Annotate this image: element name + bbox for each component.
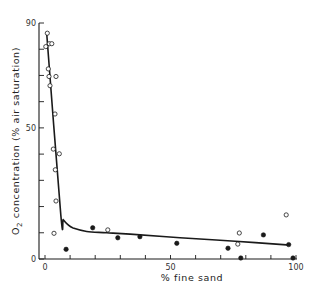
fitted-curve — [47, 35, 290, 245]
scatter-chart: 05010005090 % fine sand O2 concentration… — [0, 0, 317, 294]
x-axis-title: % fine sand — [161, 272, 223, 283]
filled-circle-point — [175, 241, 179, 245]
open-circle-point — [236, 242, 240, 246]
open-circle-point — [54, 199, 58, 203]
open-circle-point — [54, 74, 58, 78]
y-tick-label: 90 — [26, 19, 36, 28]
filled-circle-point — [239, 256, 243, 260]
open-circle-point — [46, 67, 50, 71]
open-circle-point — [237, 231, 241, 235]
open-circle-point — [284, 213, 288, 217]
x-tick-label: 0 — [42, 263, 47, 272]
y-tick-label: 50 — [26, 124, 36, 133]
filled-circle-point — [64, 247, 68, 251]
open-circle-point — [57, 152, 61, 156]
filled-circle-point — [226, 246, 230, 250]
filled-circle-point — [138, 235, 142, 239]
open-circle-point — [50, 42, 54, 46]
fitted-curve-line — [47, 35, 290, 245]
filled-circle-point — [287, 242, 291, 246]
axis-ticks — [39, 23, 296, 259]
open-circle-point — [48, 84, 52, 88]
filled-circle-point — [291, 256, 295, 260]
filled-circle-point — [91, 226, 95, 230]
filled-circle-point — [116, 236, 120, 240]
open-circle-point — [106, 228, 110, 232]
open-circle-point — [52, 231, 56, 235]
y-tick-label: 0 — [31, 255, 36, 264]
x-tick-label: 100 — [288, 263, 303, 272]
open-circle-point — [53, 112, 57, 116]
open-circle-point — [51, 147, 55, 151]
y-axis-title: O2 concentration (% air saturation) — [10, 47, 24, 235]
filled-circle-point — [261, 233, 265, 237]
open-circle-point — [45, 31, 49, 35]
axes — [39, 23, 297, 259]
open-circle-point — [47, 74, 51, 78]
open-circle-point — [53, 168, 57, 172]
x-tick-label: 50 — [165, 263, 175, 272]
data-points — [44, 31, 295, 260]
